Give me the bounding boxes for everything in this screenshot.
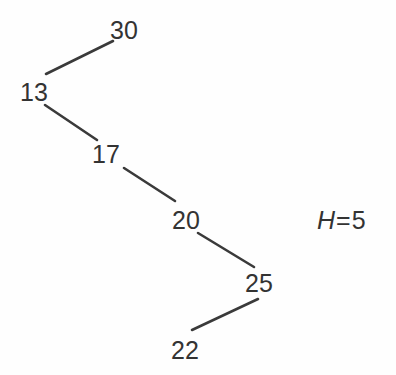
tree-node-30: 30 [110,18,138,43]
tree-node-20: 20 [172,208,200,233]
binary-tree-diagram: 30 13 17 20 25 22 H=5 [0,0,396,375]
equals-sign: = [335,206,352,234]
edge-25-22 [192,299,258,330]
edge-17-20 [124,168,175,201]
tree-node-13: 13 [20,80,48,105]
edge-20-25 [198,233,254,267]
tree-edges-layer [0,0,396,375]
edge-13-30 [46,41,113,74]
tree-node-17: 17 [92,142,120,167]
height-value-label: 5 [352,206,366,234]
height-variable-label: H [317,206,335,234]
tree-node-25: 25 [245,271,273,296]
edge-13-17 [45,105,97,140]
height-annotation: H=5 [317,208,366,233]
tree-node-22: 22 [171,338,199,363]
